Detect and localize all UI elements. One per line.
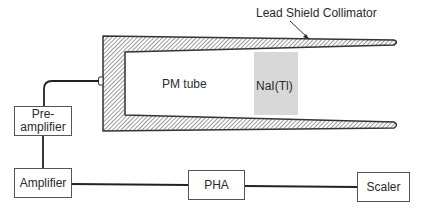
- scaler-block: Scaler: [357, 172, 410, 202]
- wire-amplifier-pha: [71, 184, 188, 185]
- signal-cable: [44, 81, 99, 106]
- crystal-label: NaI(Tl): [256, 80, 293, 93]
- collimator-label: Lead Shield Collimator: [256, 7, 377, 20]
- pm-tube-label: PM tube: [162, 78, 207, 91]
- scaler-label: Scaler: [366, 181, 400, 194]
- lead-shield-collimator: [103, 36, 397, 131]
- amplifier-block: Amplifier: [14, 168, 72, 198]
- preamplifier-label-line2: amplifier: [20, 121, 65, 134]
- pha-block: PHA: [188, 170, 245, 200]
- amplifier-label: Amplifier: [20, 177, 67, 190]
- wire-pha-scaler: [245, 186, 357, 187]
- pha-label: PHA: [204, 179, 229, 192]
- preamplifier-block: Pre- amplifier: [14, 106, 72, 136]
